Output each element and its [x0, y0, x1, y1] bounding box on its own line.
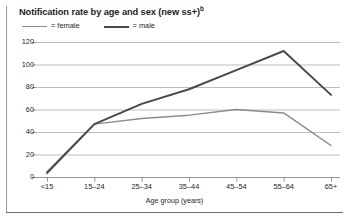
- y-tick-label-100: 100: [12, 61, 34, 69]
- gridline-layer: [36, 43, 340, 178]
- x-axis-title: Age group (years): [0, 196, 349, 205]
- figure-container: Notification rate by age and sex (new ss…: [0, 0, 349, 224]
- x-tick-label-5: 55–64: [273, 182, 294, 191]
- x-tick-label-6: 65+: [325, 182, 338, 191]
- y-tick-label-20: 20: [12, 151, 34, 159]
- data-line-female: [47, 110, 331, 174]
- y-tick-label-60: 60: [12, 106, 34, 114]
- y-tick-label-0: 0: [12, 173, 34, 181]
- x-axis-tick-labels: <1515–2425–3435–4445–5455–6465+: [0, 182, 349, 193]
- x-tick-label-3: 35–44: [179, 182, 200, 191]
- y-tick-label-80: 80: [12, 83, 34, 91]
- x-tick-label-2: 25–34: [131, 182, 152, 191]
- x-tick-label-0: <15: [41, 182, 54, 191]
- data-line-male: [47, 51, 331, 173]
- y-tick-label-40: 40: [12, 128, 34, 136]
- y-tick-label-120: 120: [12, 38, 34, 46]
- x-tick-label-1: 15–24: [84, 182, 105, 191]
- x-tick-label-4: 45–54: [226, 182, 247, 191]
